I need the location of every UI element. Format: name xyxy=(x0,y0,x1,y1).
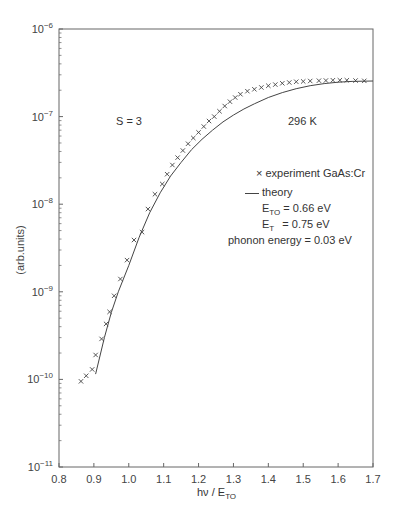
data-point-x-marker xyxy=(259,85,263,89)
data-point-x-marker xyxy=(238,92,242,96)
y-tick-label: 10−6 xyxy=(32,21,54,35)
legend-theory: theory xyxy=(245,186,293,198)
data-point-x-marker xyxy=(132,238,136,242)
data-point-x-marker xyxy=(93,353,97,357)
data-point-x-marker xyxy=(223,104,227,108)
x-axis-ticks: 0.80.91.01.11.21.31.41.51.61.7 xyxy=(51,463,380,485)
y-axis-title: (arb.units) xyxy=(14,225,26,275)
legend-experiment: × experiment GaAs:Cr xyxy=(256,167,365,179)
data-point-x-marker xyxy=(207,119,211,123)
data-point-x-marker xyxy=(266,84,270,88)
data-point-x-marker xyxy=(308,79,312,83)
x-tick-label: 1.2 xyxy=(191,473,206,485)
x-tick-label: 1.7 xyxy=(365,473,380,485)
y-axis-ticks: 10−1110−1010−910−810−710−6 xyxy=(27,21,63,473)
data-point-x-marker xyxy=(280,81,284,85)
data-point-x-marker xyxy=(294,80,298,84)
data-point-x-marker xyxy=(191,136,195,140)
et-value: = 0.75 eV xyxy=(279,218,329,230)
x-axis-title: hν / ETO xyxy=(197,486,236,501)
data-point-x-marker xyxy=(175,155,179,159)
x-tick-label: 0.8 xyxy=(51,473,66,485)
x-tick-label: 1.4 xyxy=(261,473,276,485)
data-point-x-marker xyxy=(196,130,200,134)
s-value-label: S = 3 xyxy=(116,115,142,127)
data-point-x-marker xyxy=(228,99,232,103)
data-point-x-marker xyxy=(125,258,129,262)
y-tick-label: 10−8 xyxy=(32,196,54,210)
data-point-x-marker xyxy=(84,374,88,378)
eto-subscript: TO xyxy=(269,208,280,217)
x-tick-label: 1.1 xyxy=(156,473,171,485)
eto-value: = 0.66 eV xyxy=(280,202,330,214)
data-point-x-marker xyxy=(181,148,185,152)
data-point-x-marker xyxy=(317,78,321,82)
data-point-x-marker xyxy=(79,379,83,383)
y-axis-label: (arb.units) xyxy=(14,225,26,275)
theory-line-icon xyxy=(245,193,259,194)
x-tick-label: 1.0 xyxy=(121,473,136,485)
legend-theory-label: theory xyxy=(262,186,293,198)
data-point-x-marker xyxy=(233,95,237,99)
y-tick-label: 10−7 xyxy=(32,109,54,123)
y-tick-label: 10−10 xyxy=(27,371,53,385)
data-point-x-marker xyxy=(301,79,305,83)
data-point-x-marker xyxy=(287,80,291,84)
data-point-x-marker xyxy=(245,89,249,93)
data-point-x-marker xyxy=(212,114,216,118)
data-point-x-marker xyxy=(202,124,206,128)
data-point-x-marker xyxy=(217,109,221,113)
data-point-x-marker xyxy=(324,78,328,82)
data-point-x-marker xyxy=(90,367,94,371)
x-axis-label-subscript: TO xyxy=(225,492,236,501)
data-point-x-marker xyxy=(146,207,150,211)
data-point-x-marker xyxy=(112,294,116,298)
data-point-x-marker xyxy=(331,78,335,82)
et-subscript: T xyxy=(269,224,274,233)
et-annotation: ET = 0.75 eV xyxy=(262,218,330,233)
log-plot: 0.80.91.01.11.21.31.41.51.61.7 10−1110−1… xyxy=(0,0,398,519)
x-tick-label: 0.9 xyxy=(86,473,101,485)
data-point-x-marker xyxy=(252,87,256,91)
data-point-x-marker xyxy=(186,142,190,146)
x-tick-label: 1.3 xyxy=(226,473,241,485)
data-point-x-marker xyxy=(99,337,103,341)
eto-annotation: ETO = 0.66 eV xyxy=(262,202,331,217)
data-point-x-marker xyxy=(353,78,357,82)
phonon-annotation: phonon energy = 0.03 eV xyxy=(228,234,352,246)
data-point-x-marker xyxy=(118,277,122,281)
data-point-x-marker xyxy=(165,172,169,176)
data-point-x-marker xyxy=(160,182,164,186)
data-point-x-marker xyxy=(170,163,174,167)
temperature-label: 296 K xyxy=(288,115,317,127)
y-tick-label: 10−9 xyxy=(32,284,54,298)
x-tick-label: 1.5 xyxy=(296,473,311,485)
x-tick-label: 1.6 xyxy=(330,473,345,485)
x-axis-label: hν / E xyxy=(197,486,225,498)
data-point-x-marker xyxy=(273,82,277,86)
data-point-x-marker xyxy=(104,322,108,326)
y-tick-label: 10−11 xyxy=(28,459,54,473)
data-point-x-marker xyxy=(153,192,157,196)
plot-frame xyxy=(59,29,373,467)
